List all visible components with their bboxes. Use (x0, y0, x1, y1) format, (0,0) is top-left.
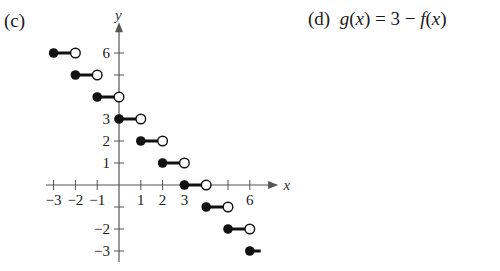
step-function-graph: xy−3−2−112366321−2−3 (0, 0, 500, 271)
closed-point-icon (71, 70, 81, 80)
x-axis-arrow-icon (268, 181, 278, 189)
open-point-icon (92, 70, 102, 80)
closed-point-icon (158, 158, 168, 168)
open-point-icon (158, 136, 168, 146)
open-point-icon (245, 224, 255, 234)
open-point-icon (223, 202, 233, 212)
y-tick-label: −2 (94, 221, 110, 237)
open-point-icon (71, 48, 81, 58)
x-axis-label: x (283, 177, 291, 193)
open-point-icon (180, 158, 190, 168)
x-tick-label: 6 (246, 192, 254, 208)
x-tick-label: 1 (137, 192, 145, 208)
y-tick-label: 6 (103, 45, 111, 61)
open-point-icon (114, 92, 124, 102)
closed-point-icon (180, 180, 190, 190)
open-point-icon (136, 114, 146, 124)
closed-point-icon (49, 48, 59, 58)
x-tick-label: 2 (159, 192, 167, 208)
y-axis-label: y (113, 7, 122, 23)
y-tick-label: 2 (103, 133, 111, 149)
closed-point-icon (92, 92, 102, 102)
closed-point-icon (201, 202, 211, 212)
y-axis-arrow-icon (115, 22, 123, 32)
y-tick-label: −3 (94, 243, 110, 259)
x-tick-label: −2 (67, 192, 83, 208)
closed-point-icon (223, 224, 233, 234)
open-point-icon (201, 180, 211, 190)
y-tick-label: 3 (103, 111, 111, 127)
y-tick-label: 1 (103, 155, 111, 171)
x-tick-label: 3 (181, 192, 189, 208)
x-tick-label: −3 (46, 192, 62, 208)
x-tick-label: −1 (89, 192, 105, 208)
closed-point-icon (114, 114, 124, 124)
closed-point-icon (136, 136, 146, 146)
closed-point-icon (245, 246, 255, 256)
